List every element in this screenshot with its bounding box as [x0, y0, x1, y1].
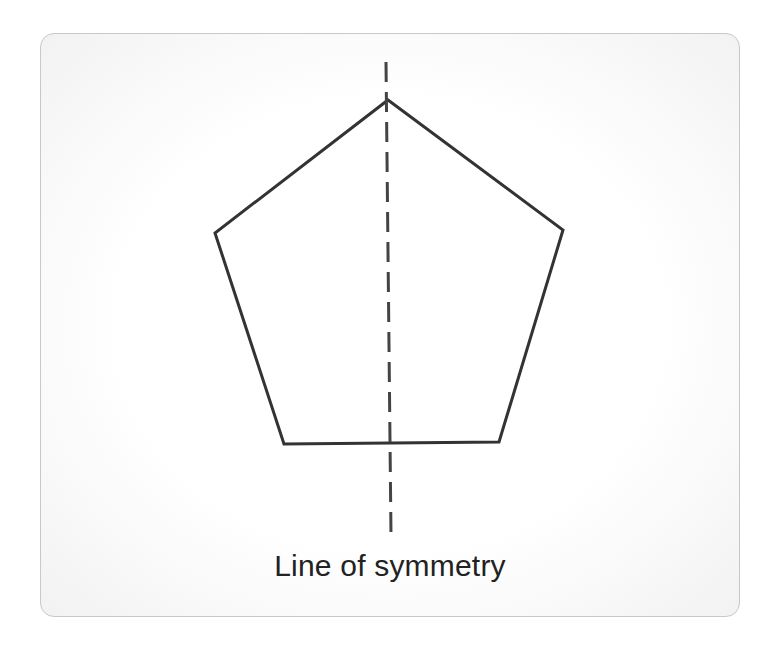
line-of-symmetry — [386, 62, 391, 535]
caption-label: Line of symmetry — [200, 549, 580, 583]
